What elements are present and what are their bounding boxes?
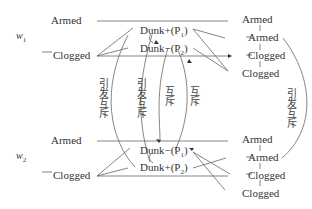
right-item: Clogged	[248, 49, 285, 61]
weight-w1: w1	[16, 30, 26, 46]
relation-label: 引发互斥	[283, 88, 298, 128]
left-armed-2: Armed	[51, 134, 82, 146]
center-bottom-2: Dunk+(P2)	[140, 161, 188, 178]
center-bottom-1: Dunk−(P2)	[140, 42, 188, 59]
left-armed-1: Armed	[51, 14, 82, 26]
left-clogged-1: Clogged	[53, 49, 90, 61]
right-item: Clogged	[242, 187, 279, 199]
relation-label: 互斥	[161, 86, 176, 106]
center-top-1: Dunk+(P1)	[140, 24, 188, 41]
relation-label: 互斥	[186, 86, 201, 106]
mutex-diagram: w1 Armed Clogged Dunk+(P1) Dunk−(P2) Arm…	[0, 0, 312, 209]
right-item: Clogged	[248, 169, 285, 181]
right-item: Armed	[248, 151, 279, 163]
arc-1	[111, 35, 135, 167]
right-item: Armed	[242, 13, 273, 25]
weight-w2: w2	[16, 150, 26, 166]
left-clogged-2: Clogged	[53, 169, 90, 181]
relation-label: 引发互斥	[95, 78, 110, 118]
center-top-2: Dunk−(P1)	[140, 144, 188, 161]
right-item: Clogged	[242, 67, 279, 79]
relation-label: 引发互斥	[133, 78, 148, 118]
right-item: Armed	[242, 133, 273, 145]
right-item: Armed	[248, 31, 279, 43]
